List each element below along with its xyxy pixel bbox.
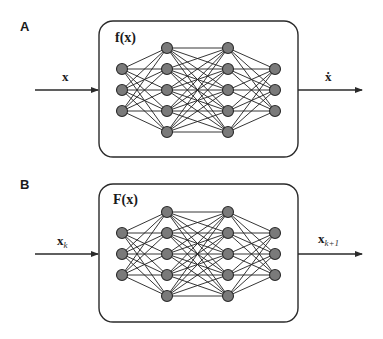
neuron-node-layer-3 (223, 249, 234, 260)
neuron-node-layer-2 (162, 43, 173, 54)
neuron-node-layer-1 (117, 64, 128, 75)
neuron-node-layer-4 (270, 106, 281, 117)
neuron-node-layer-4 (270, 249, 281, 260)
function-label-a: f(x) (115, 30, 136, 46)
panel-b-label: B (20, 177, 29, 192)
neuron-node-layer-2 (162, 249, 173, 260)
neuron-node-layer-3 (223, 43, 234, 54)
neuron-node-layer-1 (117, 270, 128, 281)
input-label-b: xk (57, 233, 69, 250)
neuron-node-layer-1 (117, 228, 128, 239)
output-label-b: xk+1 (318, 231, 339, 248)
neural-network-diagram: A f(x) x ẋ B F(x) xk xk+1 (0, 0, 383, 339)
neuron-node-layer-2 (162, 270, 173, 281)
neuron-node-layer-3 (223, 228, 234, 239)
neuron-node-layer-3 (223, 291, 234, 302)
neuron-node-layer-2 (162, 207, 173, 218)
output-label-a: ẋ (325, 69, 332, 84)
neuron-node-layer-2 (162, 106, 173, 117)
neuron-node-layer-3 (223, 127, 234, 138)
panel-a-label: A (20, 19, 30, 34)
function-label-b: F(x) (113, 192, 138, 208)
neuron-node-layer-1 (117, 249, 128, 260)
neuron-node-layer-2 (162, 291, 173, 302)
neuron-node-layer-3 (223, 64, 234, 75)
neuron-node-layer-4 (270, 85, 281, 96)
neuron-node-layer-2 (162, 228, 173, 239)
neuron-node-layer-2 (162, 127, 173, 138)
neuron-node-layer-2 (162, 64, 173, 75)
neuron-node-layer-1 (117, 106, 128, 117)
neuron-node-layer-3 (223, 85, 234, 96)
neuron-node-layer-1 (117, 85, 128, 96)
panel-a: A f(x) x ẋ (20, 19, 362, 157)
neuron-node-layer-3 (223, 207, 234, 218)
neuron-node-layer-3 (223, 106, 234, 117)
neuron-node-layer-3 (223, 270, 234, 281)
neuron-node-layer-4 (270, 228, 281, 239)
neuron-node-layer-4 (270, 64, 281, 75)
neuron-node-layer-4 (270, 270, 281, 281)
panel-b: B F(x) xk xk+1 (20, 177, 362, 322)
input-label-a: x (62, 69, 69, 84)
neuron-node-layer-2 (162, 85, 173, 96)
